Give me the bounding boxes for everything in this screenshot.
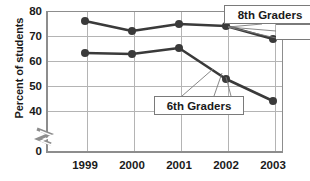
x-tick-2002: 2002	[202, 160, 250, 172]
chart-screenshot: Percent of students 80 70 60 50 40 0	[0, 0, 310, 181]
callout-8th-graders: 8th Graders	[224, 5, 310, 24]
axis-break-icon	[37, 129, 54, 146]
x-tick-1999: 1999	[61, 160, 109, 172]
point-6th-1999	[81, 49, 89, 57]
point-8th-2000	[128, 27, 136, 35]
x-tick-2000: 2000	[108, 160, 156, 172]
point-6th-2003	[269, 97, 277, 105]
chart-data-layer	[0, 0, 310, 181]
point-8th-1999	[81, 17, 89, 25]
callout-8th-graders-stub	[276, 24, 310, 40]
point-6th-2002	[222, 75, 230, 83]
x-tick-2001: 2001	[155, 160, 203, 172]
leader-lines-8th	[228, 24, 276, 38]
leader-lines-6th	[182, 69, 231, 96]
point-6th-2000	[128, 50, 136, 58]
x-tick-2003: 2003	[249, 160, 297, 172]
point-6th-2001	[175, 44, 183, 52]
point-8th-2001	[175, 20, 183, 28]
callout-6th-graders: 6th Graders	[154, 96, 244, 115]
